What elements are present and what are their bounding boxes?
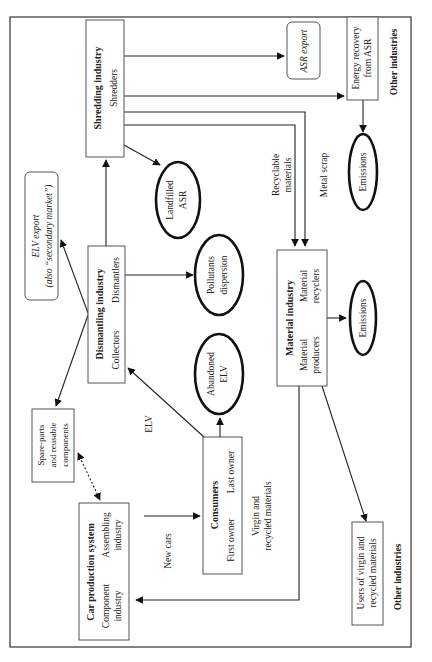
metal-scrap-label: Metal scrap — [319, 152, 329, 197]
emissions-mid-ellipse: Emissions — [350, 281, 376, 355]
edge-dismantling-elv-export — [61, 240, 88, 313]
elv-edge-label: ELV — [144, 415, 154, 433]
edge-dismantling-spare-parts — [56, 315, 88, 406]
pollutants-dispersion-ellipse: Pollutants dispersion — [195, 235, 243, 315]
last-owner-label: Last owner — [226, 450, 236, 493]
users-materials-line2: recycled materials — [368, 538, 378, 608]
asr-export-box: ASR export — [287, 22, 320, 79]
elv-export-line2: (also “secondary market”) — [44, 185, 55, 288]
users-materials-box: Users of virgin and recycled materials — [352, 522, 383, 625]
virgin-recycled-label-line2: recycled materials — [263, 481, 273, 551]
elv-export-box: ELV export (also “secondary market”) — [25, 172, 58, 300]
other-industries-top-label: Other industries — [389, 28, 399, 95]
pollutants-line2: dispersion — [219, 255, 229, 294]
emissions-top-label: Emissions — [358, 152, 368, 191]
users-materials-line1: Users of virgin and — [356, 536, 366, 609]
component-industry-line1: Component — [101, 583, 111, 628]
edge-consumers-dismantling — [128, 368, 204, 437]
component-industry-line2: industry — [113, 590, 123, 621]
landfilled-asr-ellipse: Landfilled ASR — [156, 162, 200, 238]
material-producers-line2: producers — [311, 336, 321, 374]
dismantling-industry-box: Dismantling industry Collectors Dismantl… — [88, 246, 125, 383]
material-title: Material industry — [284, 280, 295, 356]
spare-parts-line2: and reusable — [48, 422, 58, 467]
energy-recovery-line1: Energy recovery — [351, 26, 361, 89]
car-production-title: Car production system — [85, 523, 96, 621]
asr-export-label: ASR export — [299, 29, 309, 73]
shredding-industry-box: Shredding industry Shredders — [86, 20, 124, 157]
first-owner-label: First owner — [226, 517, 236, 561]
abandoned-line2: ELV — [219, 365, 229, 383]
emissions-mid-label: Emissions — [358, 298, 368, 337]
elv-flow-diagram: Shredding industry Shredders ASR export … — [0, 0, 432, 662]
recyclable-label-line2: materials — [283, 157, 293, 192]
shredding-title: Shredding industry — [92, 47, 103, 130]
car-production-box: Car production system Component industry… — [79, 503, 129, 640]
material-industry-box: Material industry Material producers Mat… — [277, 250, 327, 386]
assembling-industry-line2: industry — [113, 519, 123, 550]
landfilled-line2: ASR — [178, 190, 188, 209]
assembling-industry-line1: Assembling — [101, 512, 111, 558]
abandoned-line1: Abandoned — [206, 352, 216, 396]
consumers-box: Consumers First owner Last owner — [203, 437, 242, 574]
shredders-label: Shredders — [109, 69, 119, 107]
edge-material-users — [322, 386, 366, 521]
edge-shredding-landfill — [124, 145, 160, 165]
recyclable-label-line1: Recyclable — [271, 154, 281, 196]
material-producers-line1: Material — [299, 339, 309, 372]
pollutants-line1: Pollutants — [206, 256, 216, 294]
spare-parts-line1: Spare-parts — [36, 424, 46, 465]
energy-recovery-box: Energy recovery from ASR — [347, 17, 378, 100]
dismantlers-label: Dismantlers — [111, 257, 121, 303]
landfilled-line1: Landfilled — [165, 180, 175, 220]
edge-recyclable-materials — [124, 125, 295, 246]
emissions-top-ellipse: Emissions — [349, 134, 377, 210]
material-recyclers-line1: Material — [299, 270, 309, 303]
abandoned-elv-ellipse: Abandoned ELV — [195, 334, 243, 414]
material-recyclers-line2: recyclers — [311, 269, 321, 304]
spare-parts-line3: components — [60, 423, 70, 467]
other-industries-bottom-label: Other industries — [393, 543, 403, 610]
energy-recovery-line2: from ASR — [363, 38, 373, 77]
new-cars-label: New cars — [163, 533, 173, 569]
spare-parts-box: Spare-parts and reusable components — [32, 409, 74, 482]
collectors-label: Collectors — [111, 330, 121, 369]
virgin-recycled-label-line1: Virgin and — [251, 496, 261, 536]
elv-export-line1: ELV export — [31, 214, 41, 258]
dismantling-title: Dismantling industry — [94, 269, 105, 360]
edge-spare-parts-car-production — [78, 453, 100, 500]
consumers-title: Consumers — [209, 481, 220, 529]
